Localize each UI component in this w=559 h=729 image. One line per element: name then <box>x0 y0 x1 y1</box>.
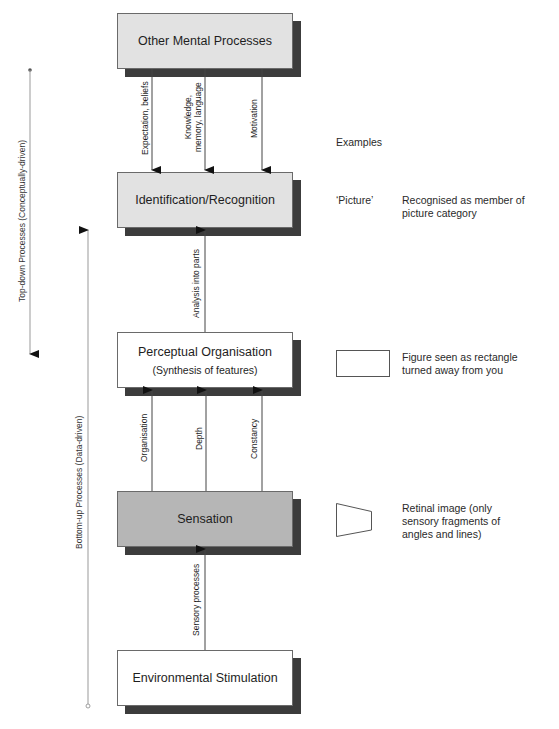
rectangle-example-icon <box>337 351 390 377</box>
bottom-up-start-circle <box>86 704 90 708</box>
trapezoid-retinal-image-icon <box>337 504 372 537</box>
connector-lines <box>0 0 559 729</box>
